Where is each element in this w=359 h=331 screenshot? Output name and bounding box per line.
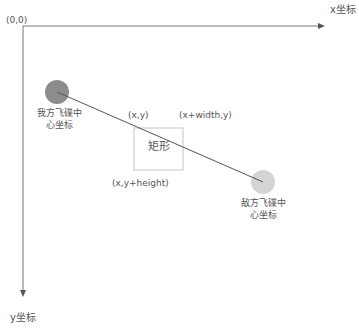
origin-label: (0,0) [6,14,27,26]
diagram-canvas [0,0,359,331]
enemy-ship-label-line2: 心坐标 [236,209,290,221]
enemy-ship-label-line1: 敌方飞碟中 [236,197,290,209]
rectangle-label: 矩形 [148,141,170,153]
x-axis-arrow-icon [318,23,325,29]
rect-top-left-label: (x,y) [128,109,149,121]
rect-top-right-label: (x+width,y) [179,109,232,121]
y-axis-arrow-icon [20,290,26,297]
our-ship-label-line1: 我方飞碟中 [32,107,86,119]
x-axis-label: x坐标 [330,4,356,16]
our-ship-label: 我方飞碟中 心坐标 [32,107,86,131]
enemy-ship-label: 敌方飞碟中 心坐标 [236,197,290,221]
y-axis-label: y坐标 [10,312,36,324]
rect-bottom-left-label: (x,y+height) [112,177,169,189]
our-ship-label-line2: 心坐标 [32,119,86,131]
